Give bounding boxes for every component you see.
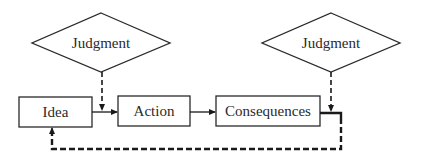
judgment-right-label: Judgment <box>302 35 361 51</box>
consequences-output-line <box>320 113 341 118</box>
action-label: Action <box>134 103 175 119</box>
judgment-left-label: Judgment <box>72 35 131 51</box>
action-node: Action <box>118 96 190 126</box>
judgment-right-node: Judgment <box>262 13 400 72</box>
idea-node: Idea <box>19 97 92 127</box>
judgment-feedback-diagram: Judgment Judgment Idea Action Consequenc… <box>0 0 422 159</box>
idea-label: Idea <box>43 104 69 120</box>
consequences-node: Consequences <box>216 96 320 126</box>
judgment-left-node: Judgment <box>32 13 170 72</box>
consequences-label: Consequences <box>225 103 311 119</box>
